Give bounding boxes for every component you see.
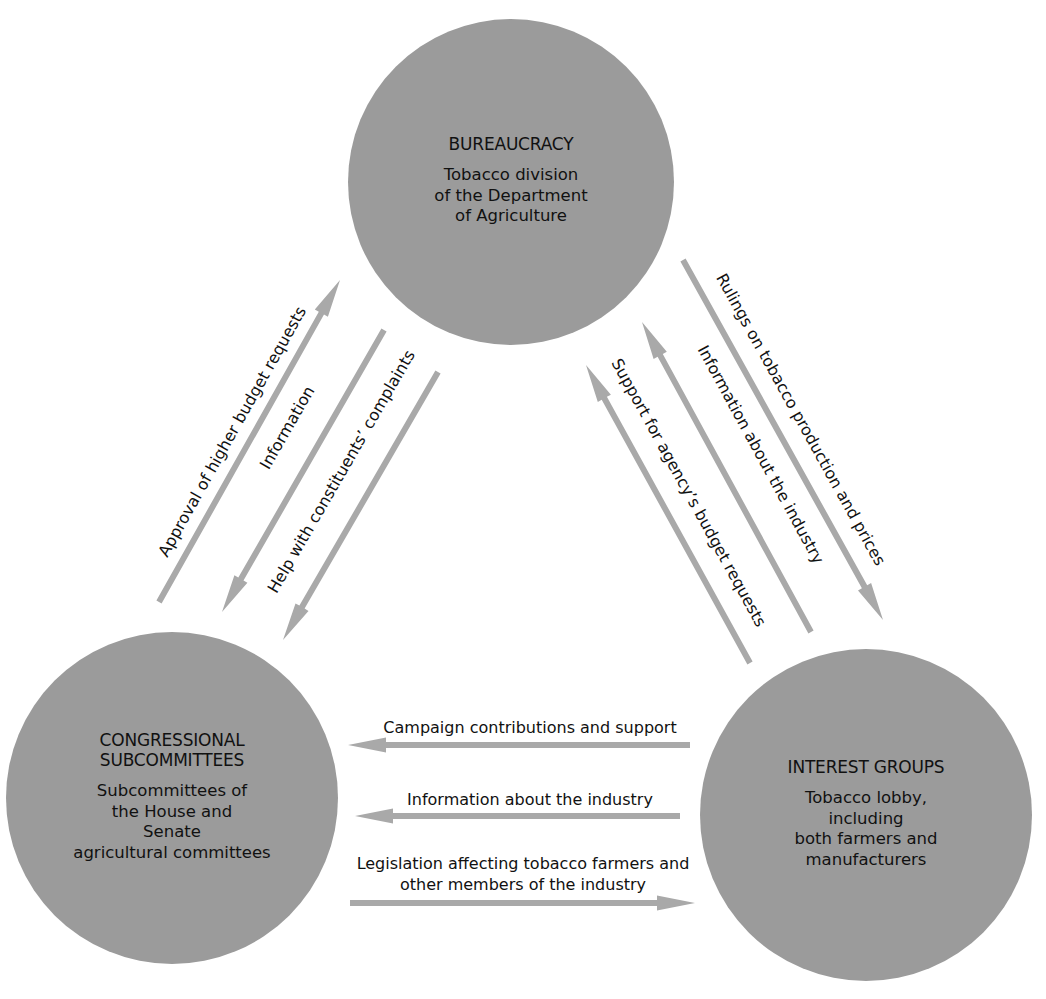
edge-rulings-tobacco: Rulings on tobacco production and prices xyxy=(680,259,889,621)
edge-information-industry-to-congress: Information about the industry xyxy=(355,790,680,824)
arrow-icon xyxy=(350,896,695,911)
node-bureaucracy: BUREAUCRACYTobacco divisionof the Depart… xyxy=(348,19,674,345)
edge-label: Help with constituents’ complaints xyxy=(263,347,418,597)
arrow-icon xyxy=(222,329,387,613)
node-description: of the Department xyxy=(434,186,588,205)
node-description: Subcommittees of xyxy=(97,781,248,800)
node-description: both farmers and xyxy=(794,829,937,848)
node-interest-groups: INTEREST GROUPSTobacco lobby,includingbo… xyxy=(700,649,1032,981)
edge-legislation-affecting: Legislation affecting tobacco farmers an… xyxy=(350,854,695,911)
node-description: Tobacco lobby, xyxy=(804,788,927,807)
node-description: agricultural committees xyxy=(73,843,270,862)
edge-label: Information about the industry xyxy=(407,790,653,809)
node-title: SUBCOMMITTEES xyxy=(100,750,244,770)
edge-label: Legislation affecting tobacco farmers an… xyxy=(357,854,690,873)
node-title: INTEREST GROUPS xyxy=(788,757,945,777)
edge-approval-budget: Approval of higher budget requests xyxy=(154,280,340,604)
arrow-icon xyxy=(156,280,340,604)
arrow-icon xyxy=(355,809,680,824)
edge-information-to-congress: Information xyxy=(222,329,387,613)
node-congressional-subcommittees: CONGRESSIONALSUBCOMMITTEESSubcommittees … xyxy=(6,632,338,964)
node-description: Tobacco division xyxy=(443,165,579,184)
node-description: Senate xyxy=(143,822,201,841)
node-description: the House and xyxy=(112,802,232,821)
node-description: including xyxy=(828,809,903,828)
node-title: CONGRESSIONAL xyxy=(100,730,246,750)
node-title: BUREAUCRACY xyxy=(449,134,575,154)
arrow-icon xyxy=(642,322,814,633)
nodes-layer: BUREAUCRACYTobacco divisionof the Depart… xyxy=(6,19,1032,981)
edge-label: Support for agency’s budget requests xyxy=(607,355,770,630)
arrow-icon xyxy=(680,259,883,621)
arrow-icon xyxy=(348,738,690,753)
iron-triangle-diagram: BUREAUCRACYTobacco divisionof the Depart… xyxy=(0,0,1046,999)
node-description: manufacturers xyxy=(806,850,927,869)
node-description: of Agriculture xyxy=(455,206,567,225)
edge-label: Campaign contributions and support xyxy=(383,718,676,737)
edge-campaign-contributions: Campaign contributions and support xyxy=(348,718,690,753)
edge-label: other members of the industry xyxy=(400,875,646,894)
